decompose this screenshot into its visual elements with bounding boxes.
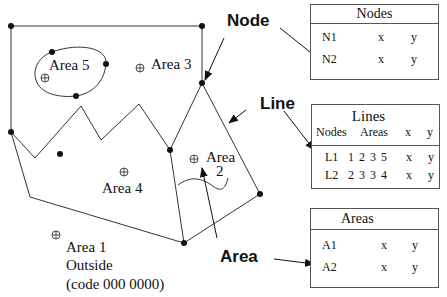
area4-lower-boundary-line	[11, 132, 184, 243]
area-callout-label: Area	[220, 247, 258, 266]
node-area5-bottom	[73, 93, 79, 99]
area-arrow-to-diagram	[202, 168, 217, 238]
node-area5-right	[103, 61, 109, 67]
line-id: L2	[325, 168, 338, 183]
node-x: x	[378, 30, 384, 45]
node-area5-top	[49, 49, 55, 55]
lines-table-header: Lines Nodes Areas x y	[312, 105, 439, 146]
table-row: L1 1 2 3 5 x y	[312, 150, 439, 166]
table-row: N1 x y	[311, 30, 438, 46]
node-isolated	[57, 151, 63, 157]
table-row: L2 2 3 3 4 x y	[312, 168, 439, 184]
node-id: N1	[322, 30, 337, 45]
area3-label: Area 3	[151, 56, 191, 72]
node-top-left	[8, 23, 14, 29]
areas-table: Areas A1 x y A2 x y	[310, 208, 439, 288]
centroid-icon-area3	[136, 64, 144, 72]
area4-label: Area 4	[102, 180, 143, 196]
area-arrow-to-table	[274, 259, 314, 264]
line-arrow-to-diagram	[229, 110, 246, 123]
node-left	[8, 129, 14, 135]
node-zigzag-end	[167, 147, 173, 153]
node-n2	[199, 80, 205, 86]
area1-label-line2: Outside	[66, 257, 113, 273]
centroid-icon-area2	[190, 155, 198, 163]
outer-boundary-line	[11, 26, 202, 132]
line-x: x	[406, 150, 412, 165]
areas-table-title: Areas	[311, 209, 438, 230]
line-node2-to-zigzag-end	[170, 83, 202, 150]
node-x: x	[378, 52, 384, 67]
line-id: L1	[325, 150, 338, 165]
area2-label-line2: 2	[216, 163, 224, 179]
table-row: A2 x y	[311, 260, 438, 276]
column-header-y: y	[427, 125, 433, 140]
line-y: y	[428, 150, 434, 165]
callout-arrows	[202, 28, 320, 264]
centroid-icon-area5	[41, 74, 49, 82]
line-right-to-bottom-node	[184, 194, 260, 243]
zigzag-line	[11, 104, 170, 158]
line-y: y	[428, 168, 434, 183]
node-callout-label: Node	[227, 11, 270, 30]
table-row: A1 x y	[311, 238, 438, 254]
area-id: A2	[322, 260, 337, 275]
nodes-table: Nodes N1 x y N2 x y	[310, 4, 439, 80]
node-arrow-to-diagram	[205, 38, 224, 80]
node-bottom	[181, 240, 187, 246]
node-id: N2	[322, 52, 337, 67]
line-node2-to-right-node	[202, 83, 260, 194]
centroid-icon-area4	[120, 168, 128, 176]
area-x: x	[381, 238, 387, 253]
node-right	[257, 191, 263, 197]
area2-squiggle	[178, 178, 228, 189]
line-x: x	[406, 168, 412, 183]
area-x: x	[381, 260, 387, 275]
nodes	[8, 23, 263, 246]
node-top-right	[199, 23, 205, 29]
centroid-icon-area1	[52, 231, 60, 239]
column-header-x: x	[405, 125, 411, 140]
area1-label-line1: Area 1	[66, 239, 106, 255]
nodes-table-title: Nodes	[311, 5, 438, 24]
line-values: 1 2 3 5	[348, 150, 387, 165]
lines-table: Lines Nodes Areas x y L1 1 2 3 5 x y L2 …	[311, 104, 440, 189]
table-row: N2 x y	[311, 52, 438, 68]
node-y: y	[411, 52, 417, 67]
area-y: y	[412, 260, 418, 275]
line-values: 2 3 3 4	[348, 168, 387, 183]
line-zigzag-end-to-bottom-node	[170, 150, 184, 243]
lines-table-column-headers: Nodes Areas x y	[312, 125, 439, 141]
area-y: y	[412, 238, 418, 253]
area-id: A1	[322, 238, 337, 253]
column-header-areas: Areas	[360, 125, 388, 140]
node-y: y	[411, 30, 417, 45]
column-header-nodes: Nodes	[316, 125, 347, 140]
area5-label: Area 5	[49, 57, 89, 73]
area1-label-line3: (code 000 0000)	[66, 276, 164, 293]
line-callout-label: Line	[260, 94, 295, 113]
area-centroids	[41, 64, 198, 239]
lines-table-title: Lines	[298, 105, 439, 125]
